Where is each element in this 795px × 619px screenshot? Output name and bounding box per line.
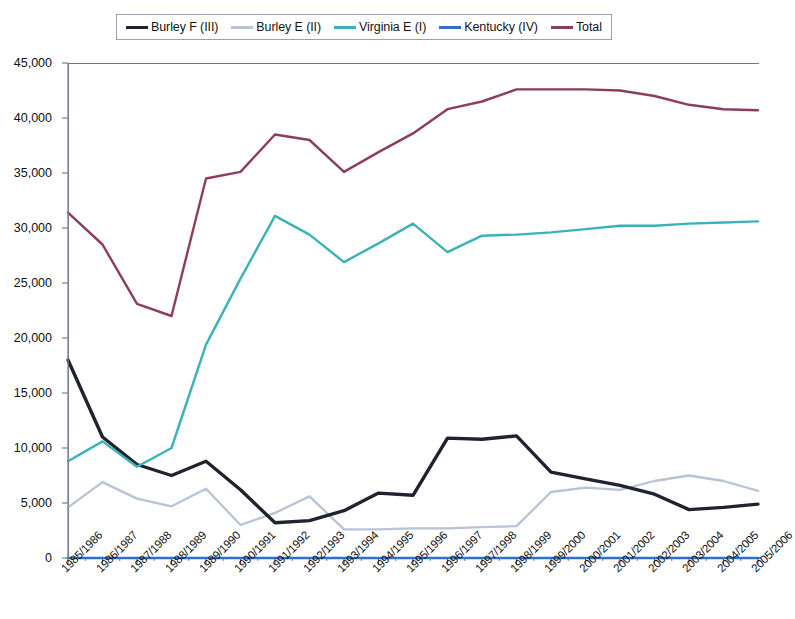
series-line-virginia-e-i: [68, 216, 758, 467]
series-line-total: [68, 89, 758, 316]
series-line-burley-e-ii: [68, 476, 758, 530]
series-line-burley-f-iii: [68, 360, 758, 523]
